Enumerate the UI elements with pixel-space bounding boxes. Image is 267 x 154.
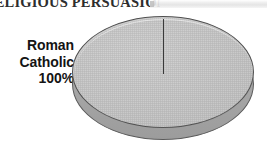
scan-artifact-speck — [150, 1, 154, 7]
scan-artifact-bar — [150, 0, 267, 8]
pie-slice-divider — [163, 19, 164, 74]
chart-title: RELIGIOUS PERSUASION — [0, 0, 160, 11]
slice-label-line-1: Roman — [2, 37, 74, 54]
slice-label-line-2: Catholic — [2, 54, 74, 71]
slice-label-line-3: 100% — [2, 70, 74, 87]
pie-chart-figure: RELIGIOUS PERSUASION Roman Catholic 100% — [0, 0, 267, 154]
slice-label: Roman Catholic 100% — [2, 37, 74, 87]
chart-title-clip: RELIGIOUS PERSUASION — [0, 0, 160, 11]
pie-rim-highlight — [75, 19, 253, 127]
pie-chart — [72, 16, 254, 140]
pie-top-face — [72, 16, 254, 128]
pie-fill-texture — [74, 18, 254, 128]
